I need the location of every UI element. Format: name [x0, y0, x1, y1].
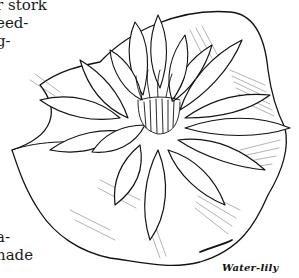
illustration-caption: Water-lily — [222, 262, 278, 273]
water-lily-illustration — [0, 0, 299, 278]
book-page: r stork eed- g- a- nade — [0, 0, 299, 278]
